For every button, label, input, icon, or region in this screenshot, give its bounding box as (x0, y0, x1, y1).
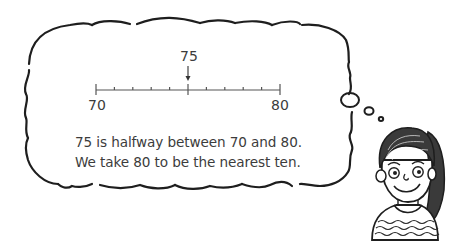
face (382, 160, 432, 202)
illustration-canvas: 75 70 80 75 is halfway between 70 and 80… (0, 0, 465, 248)
girl-character (0, 0, 465, 248)
